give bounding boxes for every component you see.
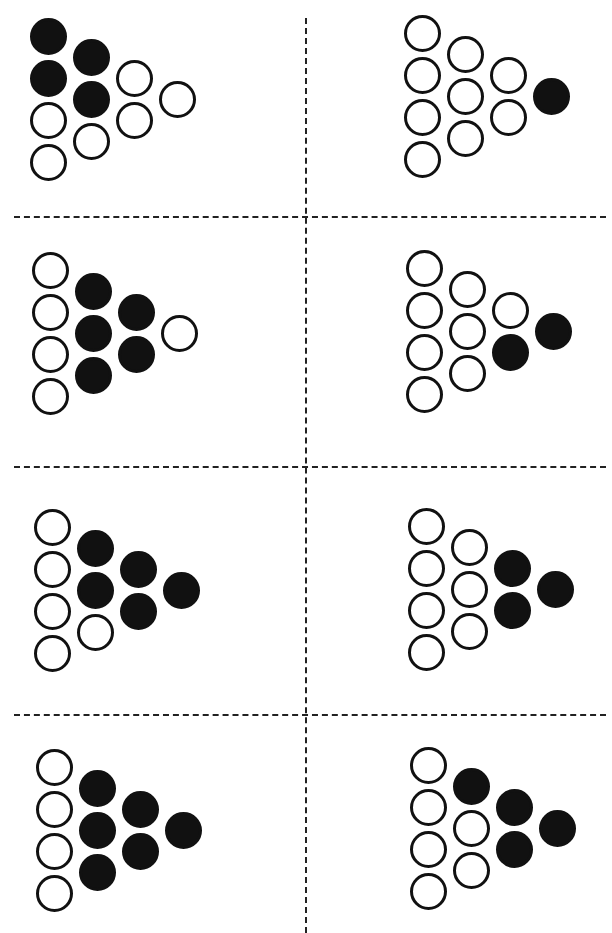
filled-circle-icon	[75, 315, 112, 352]
empty-circle-icon	[447, 78, 484, 115]
empty-circle-icon	[36, 875, 73, 912]
panel-r2c2	[406, 250, 612, 460]
panel-r4c2	[410, 747, 612, 933]
panel-r3c2	[408, 508, 612, 718]
empty-circle-icon	[451, 571, 488, 608]
empty-circle-icon	[30, 102, 67, 139]
empty-circle-icon	[453, 852, 490, 889]
filled-circle-icon	[120, 551, 157, 588]
empty-circle-icon	[451, 613, 488, 650]
empty-circle-icon	[36, 833, 73, 870]
empty-circle-icon	[447, 120, 484, 157]
empty-circle-icon	[73, 123, 110, 160]
filled-circle-icon	[73, 81, 110, 118]
filled-circle-icon	[537, 571, 574, 608]
empty-circle-icon	[32, 336, 69, 373]
panel-r4c1	[36, 749, 336, 933]
filled-circle-icon	[118, 294, 155, 331]
empty-circle-icon	[410, 789, 447, 826]
empty-circle-icon	[449, 313, 486, 350]
filled-circle-icon	[79, 770, 116, 807]
empty-circle-icon	[490, 57, 527, 94]
filled-circle-icon	[30, 18, 67, 55]
empty-circle-icon	[449, 271, 486, 308]
filled-circle-icon	[494, 592, 531, 629]
filled-circle-icon	[496, 831, 533, 868]
filled-circle-icon	[79, 812, 116, 849]
empty-circle-icon	[404, 99, 441, 136]
empty-circle-icon	[34, 593, 71, 630]
empty-circle-icon	[32, 252, 69, 289]
filled-circle-icon	[122, 791, 159, 828]
empty-circle-icon	[410, 831, 447, 868]
filled-circle-icon	[30, 60, 67, 97]
empty-circle-icon	[404, 57, 441, 94]
filled-circle-icon	[79, 854, 116, 891]
empty-circle-icon	[408, 592, 445, 629]
empty-circle-icon	[408, 550, 445, 587]
empty-circle-icon	[449, 355, 486, 392]
empty-circle-icon	[410, 747, 447, 784]
empty-circle-icon	[451, 529, 488, 566]
empty-circle-icon	[404, 15, 441, 52]
filled-circle-icon	[496, 789, 533, 826]
empty-circle-icon	[490, 99, 527, 136]
filled-circle-icon	[122, 833, 159, 870]
empty-circle-icon	[410, 873, 447, 910]
empty-circle-icon	[404, 141, 441, 178]
filled-circle-icon	[535, 313, 572, 350]
empty-circle-icon	[116, 60, 153, 97]
filled-circle-icon	[492, 334, 529, 371]
empty-circle-icon	[116, 102, 153, 139]
empty-circle-icon	[406, 292, 443, 329]
filled-circle-icon	[75, 357, 112, 394]
filled-circle-icon	[118, 336, 155, 373]
panel-r1c2	[404, 15, 612, 225]
empty-circle-icon	[34, 551, 71, 588]
empty-circle-icon	[77, 614, 114, 651]
empty-circle-icon	[36, 749, 73, 786]
empty-circle-icon	[36, 791, 73, 828]
empty-circle-icon	[406, 376, 443, 413]
empty-circle-icon	[453, 810, 490, 847]
filled-circle-icon	[165, 812, 202, 849]
empty-circle-icon	[447, 36, 484, 73]
filled-circle-icon	[77, 530, 114, 567]
empty-circle-icon	[406, 334, 443, 371]
empty-circle-icon	[161, 315, 198, 352]
empty-circle-icon	[30, 144, 67, 181]
filled-circle-icon	[539, 810, 576, 847]
filled-circle-icon	[75, 273, 112, 310]
panel-r1c1	[30, 18, 330, 228]
filled-circle-icon	[77, 572, 114, 609]
empty-circle-icon	[34, 509, 71, 546]
empty-circle-icon	[408, 508, 445, 545]
empty-circle-icon	[32, 378, 69, 415]
filled-circle-icon	[453, 768, 490, 805]
filled-circle-icon	[73, 39, 110, 76]
horizontal-divider-2	[14, 466, 606, 468]
empty-circle-icon	[492, 292, 529, 329]
empty-circle-icon	[34, 635, 71, 672]
empty-circle-icon	[406, 250, 443, 287]
filled-circle-icon	[494, 550, 531, 587]
filled-circle-icon	[533, 78, 570, 115]
panel-r2c1	[32, 252, 332, 462]
empty-circle-icon	[32, 294, 69, 331]
filled-circle-icon	[120, 593, 157, 630]
empty-circle-icon	[408, 634, 445, 671]
filled-circle-icon	[163, 572, 200, 609]
panel-r3c1	[34, 509, 334, 719]
empty-circle-icon	[159, 81, 196, 118]
